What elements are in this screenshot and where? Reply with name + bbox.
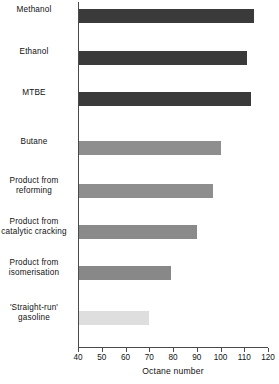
- category-label-isomerisation: Product from isomerisation: [0, 258, 70, 277]
- category-label-ethanol: Ethanol: [0, 47, 70, 57]
- x-axis-tick: [149, 348, 150, 352]
- x-axis-tick: [244, 348, 245, 352]
- x-axis-tick: [78, 348, 79, 352]
- x-axis-title: Octane number: [78, 366, 268, 376]
- bar: [78, 92, 251, 106]
- category-label-methanol: Methanol: [0, 5, 70, 15]
- y-axis-line: [78, 2, 79, 348]
- bar: [78, 311, 149, 325]
- category-label-straight-run: 'Straight-run' gasoline: [0, 303, 70, 322]
- bar: [78, 9, 254, 23]
- category-label-reforming: Product from reforming: [0, 176, 70, 195]
- x-axis-tick: [197, 348, 198, 352]
- plot-area: [78, 0, 268, 348]
- bar: [78, 184, 213, 198]
- octane-number-bar-chart: Methanol Ethanol MTBE Butane Product fro…: [0, 0, 279, 384]
- category-label-mtbe: MTBE: [0, 88, 70, 98]
- x-axis-tick: [221, 348, 222, 352]
- bar: [78, 141, 221, 155]
- bar: [78, 51, 247, 65]
- bar: [78, 225, 197, 239]
- x-axis-tick: [268, 348, 269, 352]
- x-axis-tick: [173, 348, 174, 352]
- x-axis-tick: [102, 348, 103, 352]
- category-label-butane: Butane: [0, 137, 70, 147]
- x-axis-tick: [126, 348, 127, 352]
- category-label-catalytic-cracking: Product from catalytic cracking: [0, 217, 70, 236]
- bar: [78, 266, 171, 280]
- x-axis-tick-label: 120: [253, 353, 279, 363]
